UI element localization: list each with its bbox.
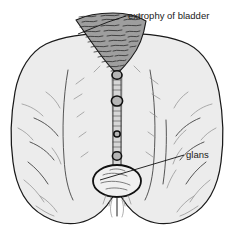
label-glans: glans — [186, 149, 209, 160]
nodule-4 — [114, 131, 120, 137]
nodule-3 — [112, 152, 121, 160]
nodule-1 — [112, 71, 122, 79]
perineal-crease-right — [122, 200, 124, 217]
medical-figure: extrophy of bladder glans — [0, 0, 236, 243]
nodule-2 — [111, 96, 122, 106]
perineal-crease-left — [111, 200, 113, 217]
illustration-canvas: extrophy of bladder glans — [0, 0, 236, 243]
label-extrophy-of-bladder: extrophy of bladder — [128, 10, 209, 21]
